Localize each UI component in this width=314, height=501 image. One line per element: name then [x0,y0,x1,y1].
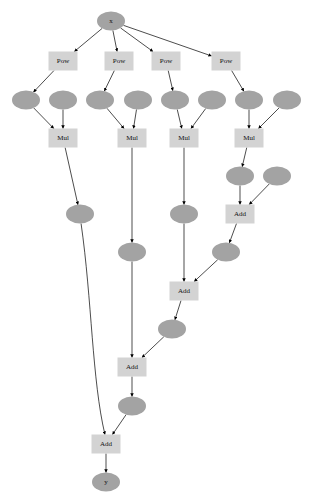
variable-node-v2 [49,91,77,110]
ellipse-shape [49,91,77,110]
edge-pow1-to-v1 [34,71,54,93]
edge-mul4-to-v9 [242,148,247,167]
edge-v14-to-add2 [194,260,218,282]
ellipse-shape [235,91,263,110]
edge-v3-to-mul2 [107,108,124,128]
variable-node-v9 [226,167,254,186]
edge-v15-to-add3 [142,337,164,358]
edge-v8-to-mul4 [259,108,280,129]
variable-node-v15 [158,320,186,339]
operation-node-add4: Add [92,435,121,454]
edge-x-to-pow3 [121,28,153,52]
node-label: Mul [243,134,255,142]
operation-node-mul1: Mul [49,129,78,148]
variable-node-v7 [235,91,263,110]
variable-node-v1 [12,91,40,110]
edge-add1-to-v14 [229,224,236,243]
operation-node-pow3: Pow [152,52,181,71]
ellipse-shape [158,320,186,339]
edge-add2-to-v15 [175,301,181,320]
node-label: y [104,478,108,486]
node-label: Pow [113,57,126,65]
operation-node-mul3: Mul [170,129,199,148]
node-label: Mul [126,134,138,142]
variable-node-v6 [198,91,226,110]
node-label: Add [234,210,247,218]
edge-x-to-pow4 [123,25,211,56]
edge-v11-to-add4 [81,223,105,434]
variable-node-v3 [86,91,114,110]
edge-mul1-to-v11 [65,148,78,205]
variable-node-v8 [273,91,301,110]
variable-node-y: y [92,473,120,492]
ellipse-shape [273,91,301,110]
ellipse-shape [124,91,152,110]
nodes-layer: xPowPowPowPowMulMulMulMulAddAddAddAddy [12,12,301,492]
ellipse-shape [161,91,189,110]
edge-v5-to-mul3 [177,109,182,128]
edge-pow4-to-v7 [232,71,244,92]
operation-node-add2: Add [170,282,199,301]
node-label: Mul [57,134,69,142]
variable-node-v14 [212,243,240,262]
node-label: x [109,17,113,25]
node-label: Add [178,287,191,295]
ellipse-shape [226,167,254,186]
variable-node-x: x [97,12,125,31]
node-label: Add [126,363,139,371]
edge-v16-to-add4 [113,415,127,435]
edge-pow3-to-v5 [168,71,173,91]
ellipse-shape [118,397,146,416]
computation-graph: xPowPowPowPowMulMulMulMulAddAddAddAddy [0,0,314,501]
operation-node-pow1: Pow [49,52,78,71]
edge-x-to-pow2 [113,30,117,51]
node-label: Mul [178,134,190,142]
operation-node-mul2: Mul [118,129,147,148]
edge-v10-to-add1 [249,184,269,205]
variable-node-v12 [170,205,198,224]
operation-node-add1: Add [226,205,255,224]
operation-node-pow2: Pow [105,52,134,71]
variable-node-v13 [118,243,146,262]
operation-node-add3: Add [118,358,147,377]
ellipse-shape [12,91,40,110]
edge-pow2-to-v3 [104,71,114,91]
node-label: Pow [160,57,173,65]
ellipse-shape [170,205,198,224]
node-label: Pow [57,57,70,65]
ellipse-shape [263,167,291,186]
edge-v1-to-mul1 [34,108,54,129]
variable-node-v10 [263,167,291,186]
ellipse-shape [66,205,94,224]
operation-node-mul4: Mul [235,129,264,148]
ellipse-shape [118,243,146,262]
ellipse-shape [212,243,240,262]
node-label: Pow [220,57,233,65]
edge-x-to-pow1 [74,28,102,51]
variable-node-v11 [66,205,94,224]
ellipse-shape [86,91,114,110]
edge-v6-to-mul3 [191,108,206,128]
variable-node-v5 [161,91,189,110]
variable-node-v16 [118,397,146,416]
graph-canvas: xPowPowPowPowMulMulMulMulAddAddAddAddy [0,0,314,501]
node-label: Add [100,440,113,448]
edge-v4-to-mul2 [134,109,137,128]
ellipse-shape [198,91,226,110]
operation-node-pow4: Pow [212,52,241,71]
variable-node-v4 [124,91,152,110]
